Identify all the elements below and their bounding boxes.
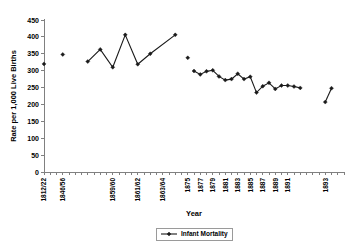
y-axis-tick-label: 250 bbox=[27, 84, 39, 91]
chart-canvas: 050100150200250300350400450 1812/221846/… bbox=[0, 0, 360, 251]
x-axis-tick-label: 1881 bbox=[222, 178, 229, 193]
chart-legend: Infant Mortality bbox=[156, 228, 232, 240]
y-axis-tick-label: 150 bbox=[27, 118, 39, 125]
y-axis-tick-label: 200 bbox=[27, 101, 39, 108]
x-axis-tick-label: 1875 bbox=[184, 178, 191, 193]
x-axis-tick-label: 1812/22 bbox=[40, 178, 47, 202]
x-axis-tick-label: 1887 bbox=[259, 178, 266, 193]
y-axis-tick-label: 50 bbox=[31, 152, 39, 159]
data-point-marker bbox=[286, 84, 290, 88]
y-axis-tick-label: 450 bbox=[27, 17, 39, 24]
data-point-marker bbox=[61, 52, 65, 56]
x-axis-title: Year bbox=[186, 209, 202, 218]
x-axis: 1812/221846/561859/601861/621863/6418751… bbox=[40, 172, 344, 202]
x-axis-tick-label: 1877 bbox=[197, 178, 204, 193]
y-axis: 050100150200250300350400450 bbox=[27, 17, 44, 176]
x-axis-tick-label: 1891 bbox=[284, 178, 291, 193]
legend-label: Infant Mortality bbox=[181, 230, 228, 238]
data-point-marker bbox=[198, 72, 202, 76]
data-point-marker bbox=[298, 86, 302, 90]
series-infant-mortality bbox=[42, 33, 334, 104]
data-point-marker bbox=[248, 75, 252, 79]
x-axis-tick-label: 1885 bbox=[247, 178, 254, 193]
series-line-segment bbox=[325, 88, 331, 102]
y-axis-tick-label: 350 bbox=[27, 50, 39, 57]
data-point-marker bbox=[205, 69, 209, 73]
x-axis-tick-label: 1893 bbox=[322, 178, 329, 193]
x-axis-tick-label: 1889 bbox=[272, 178, 279, 193]
x-axis-tick-label: 1883 bbox=[234, 178, 241, 193]
y-axis-tick-label: 0 bbox=[35, 169, 39, 176]
x-axis-tick-label: 1859/60 bbox=[109, 178, 116, 202]
series-line-segment bbox=[194, 70, 300, 92]
data-point-marker bbox=[330, 86, 334, 90]
x-axis-tick-label: 1863/64 bbox=[159, 178, 166, 202]
y-axis-title: Rate per 1,000 Live Births bbox=[9, 50, 18, 142]
y-axis-tick-label: 100 bbox=[27, 135, 39, 142]
data-point-marker bbox=[323, 100, 327, 104]
x-axis-tick-label: 1846/56 bbox=[59, 178, 66, 202]
infant-mortality-chart: 050100150200250300350400450 1812/221846/… bbox=[0, 0, 360, 251]
y-axis-tick-label: 300 bbox=[27, 67, 39, 74]
x-axis-tick-label: 1861/62 bbox=[134, 178, 141, 202]
y-axis-tick-label: 400 bbox=[27, 33, 39, 40]
data-point-marker bbox=[186, 56, 190, 60]
series-line-segment bbox=[88, 35, 176, 67]
data-point-marker bbox=[292, 85, 296, 89]
data-point-marker bbox=[42, 62, 46, 66]
x-axis-tick-label: 1879 bbox=[209, 178, 216, 193]
data-point-marker bbox=[192, 69, 196, 73]
data-point-marker bbox=[123, 33, 127, 37]
data-point-marker bbox=[280, 84, 284, 88]
